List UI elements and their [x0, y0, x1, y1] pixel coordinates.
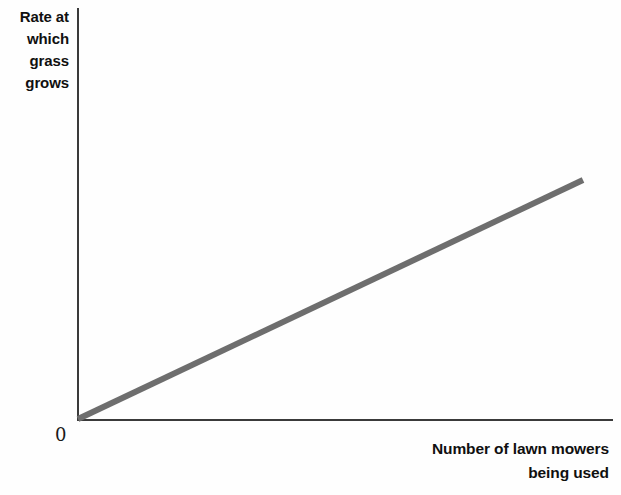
series-line-grass-growth-rate: [78, 180, 583, 419]
origin-tick-label: 0: [55, 424, 66, 445]
y-axis-label-line-4: grows: [0, 72, 69, 94]
y-axis-line: [77, 8, 79, 421]
x-axis-label-line-2: being used: [309, 461, 609, 485]
y-axis-label-line-3: grass: [0, 50, 69, 72]
y-axis-label-line-1: Rate at: [0, 6, 69, 28]
x-axis-label: Number of lawn mowers being used: [309, 437, 609, 485]
x-axis-label-line-1: Number of lawn mowers: [309, 437, 609, 461]
y-axis-label-line-2: which: [0, 28, 69, 50]
x-axis-line: [77, 419, 613, 421]
chart-container: Rate at which grass grows 0 Number of la…: [0, 0, 621, 495]
y-axis-label: Rate at which grass grows: [0, 6, 69, 94]
